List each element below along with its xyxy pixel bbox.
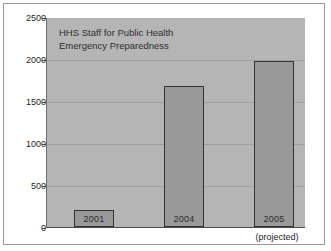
bar-2005: 2005 (254, 61, 294, 227)
y-tick-mark-0 (42, 228, 46, 229)
bar-2004: 2004 (164, 86, 204, 227)
y-axis: 2500 2000 1500 1000 500 0 (0, 0, 46, 251)
y-tick-label-1500: 1500 (6, 97, 46, 107)
chart-title-line2: Emergency Preparedness (59, 40, 169, 51)
plot-area: HHS Staff for Public HealthEmergency Pre… (46, 18, 305, 228)
bar-label-2005: 2005 (255, 214, 293, 224)
projected-annotation: (projected) (233, 232, 321, 242)
y-tick-label-500: 500 (6, 181, 46, 191)
bar-label-2001: 2001 (75, 214, 113, 224)
bar-2001: 2001 (74, 210, 114, 227)
bar-label-2004: 2004 (165, 214, 203, 224)
y-tick-label-1000: 1000 (6, 139, 46, 149)
chart-page: 2500 2000 1500 1000 500 0 HHS Staff for … (0, 0, 331, 251)
y-tick-label-2500: 2500 (6, 13, 46, 23)
chart-title: HHS Staff for Public HealthEmergency Pre… (59, 26, 173, 52)
y-tick-label-2000: 2000 (6, 55, 46, 65)
y-tick-label-0: 0 (6, 223, 46, 233)
chart-title-line1: HHS Staff for Public Health (59, 27, 173, 38)
